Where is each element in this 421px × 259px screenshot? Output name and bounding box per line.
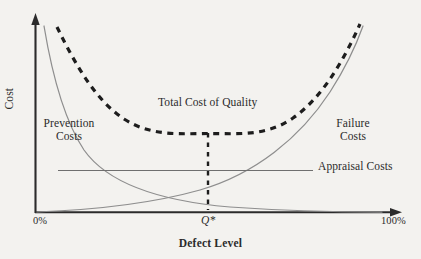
y-axis [31, 13, 39, 213]
prevention-costs-label: Prevention Costs [33, 117, 105, 143]
y-axis-label: Cost [3, 95, 16, 109]
x-tick-label-optimum: Q* [201, 214, 215, 227]
x-axis-label: Defect Level [0, 237, 421, 250]
cost-of-quality-figure: Cost Prevention Costs Failure Costs Appr… [0, 0, 421, 259]
failure-costs-label: Failure Costs [322, 117, 384, 143]
prevention-costs-label-line2: Costs [56, 130, 82, 142]
x-tick-label-max: 100% [381, 215, 406, 227]
appraisal-costs-label: Appraisal Costs [318, 160, 393, 173]
total-cost-of-quality-label: Total Cost of Quality [158, 96, 257, 109]
x-tick-label-zero: 0% [33, 215, 47, 227]
failure-costs-label-line1: Failure [336, 117, 369, 129]
failure-costs-label-line2: Costs [340, 130, 366, 142]
prevention-costs-label-line1: Prevention [44, 117, 95, 129]
